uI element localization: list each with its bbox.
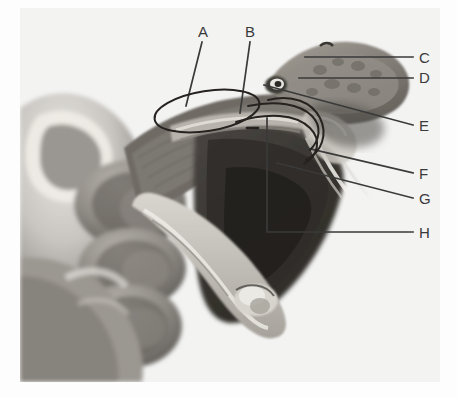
label-e: E (419, 118, 430, 133)
label-d: D (419, 70, 430, 85)
label-a: A (198, 24, 209, 39)
label-g: G (419, 191, 431, 206)
figure-root: A B C D E F G H (0, 0, 457, 397)
photograph (20, 8, 440, 382)
label-b: B (245, 24, 256, 39)
label-h: H (419, 225, 430, 240)
photograph-content (20, 8, 440, 382)
label-f: F (419, 166, 429, 181)
snake-eye (265, 76, 287, 94)
label-c: C (419, 50, 430, 65)
